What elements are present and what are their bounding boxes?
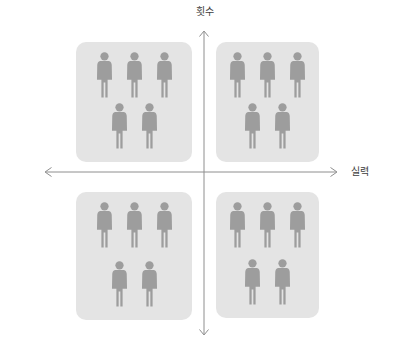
quadrant-top-left <box>76 42 192 162</box>
person-row <box>223 202 313 249</box>
person-icon <box>271 259 294 306</box>
arrow-right-icon <box>331 168 338 177</box>
quadrant-diagram: 횟수 실력 <box>0 0 400 356</box>
person-row <box>104 103 164 150</box>
arrow-down-icon <box>200 330 209 336</box>
arrow-left-icon <box>45 168 52 177</box>
person-icon <box>108 103 131 150</box>
person-icon <box>108 261 131 308</box>
person-icon <box>286 52 309 99</box>
person-icon <box>138 261 161 308</box>
axes <box>0 0 400 356</box>
person-icon <box>241 103 264 150</box>
person-row <box>89 202 179 249</box>
person-icon <box>153 52 176 99</box>
person-icon <box>153 202 176 249</box>
person-row <box>89 52 179 99</box>
y-axis-label: 횟수 <box>196 7 214 17</box>
quadrant-top-right <box>216 42 319 162</box>
quadrant-bottom-left <box>76 192 192 320</box>
person-icon <box>138 103 161 150</box>
person-icon <box>271 103 294 150</box>
person-icon <box>256 52 279 99</box>
person-icon <box>226 202 249 249</box>
person-icon <box>241 259 264 306</box>
person-row <box>104 261 164 308</box>
person-icon <box>286 202 309 249</box>
arrow-up-icon <box>200 31 209 37</box>
person-icon <box>93 202 116 249</box>
quadrant-bottom-right <box>216 192 319 318</box>
person-icon <box>123 52 146 99</box>
person-icon <box>123 202 146 249</box>
person-row <box>238 103 298 150</box>
person-icon <box>226 52 249 99</box>
person-icon <box>256 202 279 249</box>
person-row <box>238 259 298 306</box>
x-axis-label: 실력 <box>351 167 369 177</box>
person-row <box>223 52 313 99</box>
person-icon <box>93 52 116 99</box>
